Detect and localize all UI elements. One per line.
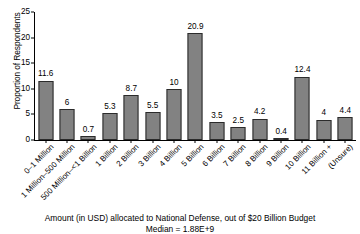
bar-slot: 0.7 [78, 12, 99, 140]
bar-slot: 5.3 [99, 12, 120, 140]
y-tick-label: 0 [12, 136, 30, 144]
y-tick-mark [31, 12, 34, 13]
bar-value-label: 4.2 [254, 108, 265, 116]
bar-slot: 2.5 [228, 12, 249, 140]
bar-value-label: 0.7 [83, 126, 94, 134]
bar-value-label: 4.4 [340, 107, 351, 115]
bar-value-label: 10 [170, 79, 179, 87]
x-tick-label: 8 Billion [244, 143, 269, 168]
x-tick-label: 2 Billion [115, 143, 140, 168]
bar [231, 127, 246, 140]
y-tick-label: 10 [12, 85, 30, 93]
bar-slot: 5.5 [142, 12, 163, 140]
y-tick-mark [31, 88, 34, 89]
plot-area: 0510152025 11.660.75.38.75.51020.93.52.5… [34, 12, 356, 141]
x-tick-label: 7 Billion [222, 143, 247, 168]
bar [252, 119, 267, 141]
bar [38, 81, 53, 140]
bar [338, 117, 353, 140]
bar-value-label: 5.3 [104, 103, 115, 111]
x-tick-label: 1 Billion [94, 143, 119, 168]
bar-value-label: 8.7 [126, 85, 137, 93]
bar-slot: 12.4 [292, 12, 313, 140]
bar-value-label: 20.9 [188, 23, 204, 31]
bar [167, 89, 182, 140]
bar [124, 95, 139, 140]
bar-slot: 4.2 [249, 12, 270, 140]
bar-slot: 0.4 [270, 12, 291, 140]
y-tick-mark [31, 114, 34, 115]
bar-value-label: 6 [65, 99, 70, 107]
y-tick-label: 20 [12, 33, 30, 41]
bar-value-label: 11.6 [38, 70, 53, 78]
y-tick-mark [31, 63, 34, 64]
bar-value-label: 3.5 [211, 112, 222, 120]
bar [316, 120, 331, 140]
bar-slot: 4.4 [335, 12, 356, 140]
bar-value-label: 12.4 [295, 66, 311, 74]
x-axis-tick-labels: 0–1 Million1 Million–500 Million500 Mill… [35, 143, 356, 205]
x-axis-title: Amount (in USD) allocated to National De… [0, 213, 360, 223]
bar-slot: 10 [163, 12, 184, 140]
y-tick-label: 5 [12, 110, 30, 118]
bar-series: 11.660.75.38.75.51020.93.52.54.20.412.44… [35, 12, 356, 140]
bar [145, 112, 160, 140]
bar-value-label: 0.4 [275, 128, 286, 136]
y-tick-mark [31, 140, 34, 141]
bar-chart: Proportion of Respondents 0510152025 11.… [0, 0, 360, 234]
bar-value-label: 2.5 [233, 117, 244, 125]
bar-slot: 3.5 [206, 12, 227, 140]
bar-slot: 4 [313, 12, 334, 140]
bar [102, 113, 117, 140]
y-tick-label: 15 [12, 59, 30, 67]
x-tick-label: 3 Billion [137, 143, 162, 168]
bar-value-label: 4 [322, 109, 327, 117]
y-tick-label: 25 [12, 8, 30, 16]
bar [295, 77, 310, 140]
x-tick-label: 5 Billion [180, 143, 205, 168]
bar-slot: 8.7 [121, 12, 142, 140]
x-axis-subtitle: Median = 1.88E+9 [0, 224, 360, 234]
bar [209, 122, 224, 140]
bar-value-label: 5.5 [147, 102, 158, 110]
x-tick-label: 4 Billion [158, 143, 183, 168]
bar-slot: 20.9 [185, 12, 206, 140]
bar [188, 33, 203, 140]
bar-slot: 6 [56, 12, 77, 140]
bar [60, 109, 75, 140]
bar-slot: 11.6 [35, 12, 56, 140]
y-tick-mark [31, 37, 34, 38]
x-tick-label: 6 Billion [201, 143, 226, 168]
